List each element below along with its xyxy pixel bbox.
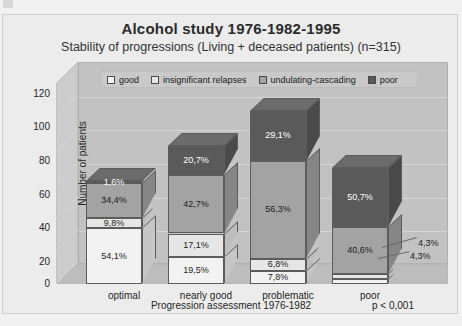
segment-front-face	[332, 274, 388, 279]
bar-segment-insignificant-relapses: 17,1%	[168, 234, 224, 258]
chart-subtitle: Stability of progressions (Living + dece…	[0, 40, 462, 54]
bar-segment-insignificant-relapses: 6,8%	[250, 259, 306, 271]
bar-segment-insignificant-relapses	[332, 274, 388, 279]
bar-segment-undulating-cascading: 34,4%	[86, 183, 142, 218]
segment-front-face: 40,6%	[332, 227, 388, 274]
ytick-0: 0	[16, 278, 50, 289]
p-value-annotation: p < 0,001	[372, 300, 414, 311]
ytick-80: 80	[16, 155, 50, 166]
segment-value-label: 6,8%	[268, 260, 289, 269]
legend-label-undulating-cascading: undulating-cascading	[271, 75, 356, 85]
bar-segment-good: 54,1%	[86, 228, 142, 284]
segment-front-face: 56,3%	[250, 161, 306, 259]
bar-segment-poor: 20,7%	[168, 146, 224, 175]
bar-segment-undulating-cascading: 42,7%	[168, 175, 224, 234]
segment-front-face: 54,1%	[86, 228, 142, 284]
legend-swatch-poor	[368, 76, 376, 84]
segment-value-label: 19,5%	[183, 266, 209, 275]
segment-value-label: 1,6%	[104, 178, 125, 187]
bar-segment-poor: 1,6%	[86, 181, 142, 183]
callout-label-insignificant-4: 4,3%	[410, 251, 431, 261]
y-axis-label: Number of patients	[77, 104, 88, 224]
segment-value-label: 42,7%	[183, 200, 209, 209]
segment-front-face: 1,6%	[86, 181, 142, 183]
segment-value-label: 29,1%	[265, 131, 291, 140]
ytick-60: 60	[16, 189, 50, 200]
legend-item-undulating-cascading: undulating-cascading	[259, 75, 356, 85]
legend-item-poor: poor	[368, 75, 398, 85]
legend-swatch-undulating-cascading	[259, 76, 267, 84]
legend-label-poor: poor	[380, 75, 398, 85]
segment-value-label: 50,7%	[347, 193, 373, 202]
ytick-40: 40	[16, 222, 50, 233]
scan-artifact	[3, 0, 13, 8]
bar-problematic: 7,8%6,8%56,3%29,1%	[250, 111, 306, 284]
plot-area: good insignificant relapses undulating-c…	[56, 62, 448, 284]
chart-title: Alcohol study 1976-1982-1995	[0, 20, 462, 37]
segment-front-face: 42,7%	[168, 175, 224, 234]
segment-value-label: 7,8%	[268, 273, 289, 282]
segment-front-face: 6,8%	[250, 259, 306, 271]
segment-value-label: 54,1%	[101, 252, 127, 261]
bar-segment-undulating-cascading: 56,3%	[250, 161, 306, 259]
bar-segment-undulating-cascading: 40,6%	[332, 227, 388, 274]
bar-segment-good: 7,8%	[250, 271, 306, 284]
segment-front-face: 29,1%	[250, 111, 306, 162]
legend-item-insignificant-relapses: insignificant relapses	[151, 75, 247, 85]
callout-label-good-4: 4,3%	[418, 238, 439, 248]
bar-segment-good	[332, 279, 388, 284]
bar-nearly-good: 19,5%17,1%42,7%20,7%	[168, 146, 224, 284]
segment-front-face: 9,8%	[86, 218, 142, 228]
segment-front-face: 17,1%	[168, 234, 224, 258]
legend-label-insignificant-relapses: insignificant relapses	[163, 75, 247, 85]
bar-segment-good: 19,5%	[168, 257, 224, 284]
ytick-20: 20	[16, 256, 50, 267]
bar-segment-poor: 50,7%	[332, 168, 388, 227]
segment-front-face: 20,7%	[168, 146, 224, 175]
segment-value-label: 40,6%	[347, 246, 373, 255]
segment-front-face: 19,5%	[168, 257, 224, 284]
segment-value-label: 17,1%	[183, 241, 209, 250]
bar-poor: 40,6%50,7%	[332, 168, 388, 284]
ytick-100: 100	[16, 121, 50, 132]
bar-optimal: 54,1%9,8%34,4%1,6%	[86, 181, 142, 284]
segment-value-label: 9,8%	[104, 219, 125, 228]
segment-front-face	[332, 279, 388, 284]
legend-label-good: good	[119, 75, 139, 85]
segment-front-face: 34,4%	[86, 183, 142, 218]
segment-front-face: 7,8%	[250, 271, 306, 284]
chart-legend: good insignificant relapses undulating-c…	[100, 71, 418, 88]
chart-image: Alcohol study 1976-1982-1995 Stability o…	[0, 0, 462, 326]
ytick-120: 120	[16, 88, 50, 99]
bar-segment-insignificant-relapses: 9,8%	[86, 218, 142, 228]
bar-segment-poor: 29,1%	[250, 111, 306, 162]
segment-front-face: 50,7%	[332, 168, 388, 227]
legend-swatch-insignificant-relapses	[151, 76, 159, 84]
segment-value-label: 20,7%	[183, 156, 209, 165]
legend-swatch-good	[107, 76, 115, 84]
segment-value-label: 34,4%	[101, 196, 127, 205]
legend-item-good: good	[107, 75, 139, 85]
segment-value-label: 56,3%	[265, 205, 291, 214]
